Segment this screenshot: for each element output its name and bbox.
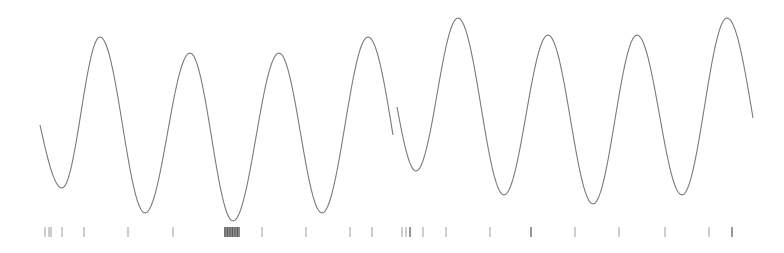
trace-2-line: [397, 18, 753, 204]
oscillation-chart: [0, 0, 784, 253]
rug-mark-layer: [45, 227, 732, 237]
trace-1-line: [40, 37, 393, 221]
curve-layer: [40, 18, 753, 221]
